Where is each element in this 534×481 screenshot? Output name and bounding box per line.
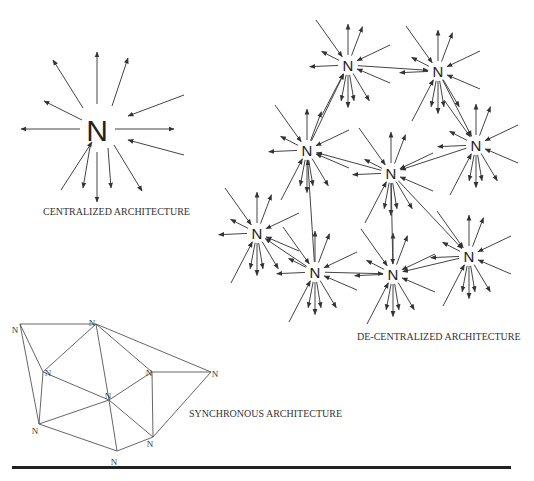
outgoing-arrow [471, 266, 475, 292]
outgoing-arrow [353, 173, 381, 174]
incoming-arrow [231, 242, 252, 283]
sync-edge [20, 324, 39, 424]
node-link-arrow [265, 239, 306, 267]
decentralized-node: N [386, 165, 397, 182]
decentralized-node: N [310, 264, 321, 281]
incoming-arrow [412, 80, 433, 121]
decentralized-node: N [302, 142, 313, 159]
synchronous-label: SYNCHRONOUS ARCHITECTURE [189, 408, 342, 419]
decentralized-label: DE-CENTRALIZED ARCHITECTURE [357, 331, 521, 342]
incoming-arrow [324, 252, 357, 268]
sync-edge [109, 400, 153, 437]
sync-edge [109, 400, 117, 451]
decentralized-node: N [471, 137, 482, 154]
sync-edge [153, 372, 211, 437]
outgoing-arrow [365, 159, 382, 168]
outgoing-arrow [353, 74, 369, 101]
incoming-arrow [478, 260, 511, 274]
outgoing-arrow [310, 65, 338, 66]
incoming-arrow [225, 188, 251, 225]
outgoing-arrow [114, 145, 142, 191]
decentralized-node: N [252, 225, 263, 242]
incoming-arrow [359, 128, 385, 165]
outgoing-arrow [386, 284, 391, 310]
incoming-arrow [447, 51, 480, 67]
synchronous-node: N [12, 325, 19, 335]
incoming-arrow [367, 283, 388, 324]
incoming-arrow [324, 276, 357, 290]
node-link-arrow [443, 80, 472, 136]
outgoing-arrow [412, 57, 429, 66]
outgoing-arrow [481, 154, 497, 181]
outgoing-arrow [108, 148, 111, 188]
outgoing-arrow [112, 58, 128, 106]
centralized-architecture: N [21, 52, 184, 202]
outgoing-arrow [473, 218, 484, 247]
incoming-arrow [128, 95, 184, 116]
decentralized-node: N [388, 266, 399, 283]
incoming-arrow [316, 154, 349, 168]
outgoing-arrow [250, 243, 255, 269]
outgoing-arrow [44, 101, 82, 120]
incoming-arrow [61, 142, 92, 190]
centralized-label: CENTRALIZED ARCHITECTURE [43, 206, 190, 217]
incoming-arrow [447, 75, 480, 89]
outgoing-arrow [281, 136, 298, 145]
sync-edge [39, 400, 109, 424]
outgoing-arrow [269, 150, 297, 151]
incoming-arrow [478, 236, 511, 252]
synchronous-node: N [212, 369, 219, 379]
incoming-arrow [437, 211, 463, 248]
synchronous-node: N [147, 439, 154, 449]
incoming-arrow [275, 105, 301, 142]
incoming-arrow [400, 177, 433, 191]
incoming-arrow [357, 69, 390, 83]
sync-edge [152, 372, 153, 437]
outgoing-arrow [462, 266, 467, 292]
outgoing-arrow [450, 131, 467, 140]
outgoing-arrow [396, 182, 412, 209]
incoming-arrow [402, 254, 435, 270]
outgoing-arrow [312, 159, 328, 186]
outgoing-arrow [319, 234, 330, 263]
outgoing-arrow [352, 27, 363, 56]
outgoing-arrow [440, 81, 444, 107]
outgoing-arrow [480, 107, 491, 136]
decentralized-architecture: NNNNNNNNN [219, 20, 518, 324]
central-node: N [86, 114, 108, 147]
incoming-arrow [322, 74, 343, 115]
outgoing-arrow [308, 282, 313, 308]
synchronous-architecture: NNNNNNNNN [12, 318, 219, 467]
incoming-arrow [365, 182, 386, 223]
node-link-arrow [311, 74, 343, 141]
synchronous-node: N [45, 368, 52, 378]
sync-edge [96, 324, 152, 372]
sync-edge [39, 424, 117, 451]
incoming-arrow [281, 159, 302, 200]
outgoing-arrow [83, 147, 90, 188]
outgoing-arrow [355, 274, 383, 275]
node-link-arrow [358, 66, 428, 71]
outgoing-arrow [398, 283, 414, 310]
incoming-arrow [266, 237, 299, 251]
node-link-arrow [391, 183, 393, 264]
outgoing-arrow [395, 135, 406, 164]
incoming-arrow [316, 130, 349, 146]
incoming-arrow [485, 149, 518, 163]
outgoing-arrow [320, 281, 336, 308]
incoming-arrow [53, 60, 83, 108]
decentralized-node: N [433, 63, 444, 80]
outgoing-arrow [231, 219, 248, 228]
outgoing-arrow [400, 71, 428, 72]
incoming-arrow [450, 154, 471, 195]
incoming-arrow [316, 20, 342, 57]
sync-edge [96, 324, 109, 400]
outgoing-arrow [322, 51, 339, 60]
outgoing-arrow [259, 243, 263, 269]
outgoing-arrow [384, 183, 389, 209]
outgoing-arrow [350, 75, 354, 101]
outgoing-arrow [261, 195, 272, 224]
horizontal-rule [12, 466, 511, 469]
node-link-arrow [325, 272, 383, 273]
outgoing-arrow [442, 33, 453, 62]
